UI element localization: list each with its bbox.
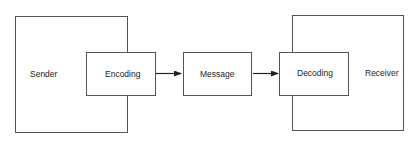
communication-diagram: Sender Receiver Encoding Message Decodin… [0, 0, 416, 141]
encoding-node: Encoding [87, 53, 156, 96]
decoding-node: Decoding [280, 53, 349, 96]
encoding-label: Encoding [105, 69, 141, 79]
sender-label: Sender [30, 69, 58, 79]
receiver-label: Receiver [365, 68, 399, 78]
decoding-label: Decoding [297, 68, 333, 78]
message-label: Message [200, 69, 235, 79]
message-node: Message [184, 53, 252, 96]
